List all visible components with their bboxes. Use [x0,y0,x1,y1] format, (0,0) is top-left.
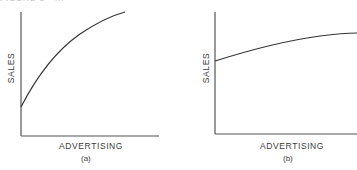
panel-a-ylabel: SALES [6,53,16,83]
panel-b-caption: (b) [283,154,293,163]
panel-a-xlabel: ADVERTISING [59,141,123,151]
panel-b-xlabel: ADVERTISING [260,141,324,151]
panel-a-axes [21,12,159,136]
panel-b-ylabel: SALES [201,53,211,83]
panel-a-caption: (a) [81,154,91,163]
panel-b-axes [215,12,357,134]
panel-b-curve [215,33,357,61]
panel-a-curve [21,12,125,107]
